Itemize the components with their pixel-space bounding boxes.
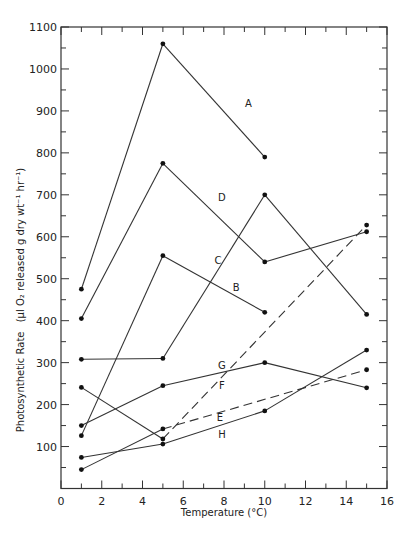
y-axis-label: Photosynthetic Rate (µl O₂ released g dr… — [15, 168, 26, 433]
x-tick-label: 4 — [139, 495, 146, 508]
y-tick-label: 500 — [36, 273, 57, 286]
data-point — [262, 408, 267, 413]
data-point — [79, 467, 84, 472]
series-segment — [163, 363, 265, 386]
y-tick-label: 200 — [36, 399, 57, 412]
series-segment — [81, 44, 163, 289]
data-point — [160, 383, 165, 388]
series-segment — [81, 163, 163, 318]
series-label-b: B — [233, 282, 240, 293]
series-segment — [81, 386, 163, 426]
series-label-h: H — [218, 429, 226, 440]
series-label-f: F — [219, 380, 225, 391]
data-point — [262, 360, 267, 365]
data-point — [160, 41, 165, 46]
line-chart: 0246810121416100200300400500600700800900… — [0, 0, 412, 534]
series-label-c: C — [214, 255, 221, 266]
data-point — [364, 223, 369, 228]
data-point — [364, 229, 369, 234]
data-point — [160, 161, 165, 166]
x-tick-label: 8 — [221, 495, 228, 508]
y-tick-label: 700 — [36, 189, 57, 202]
series-layer — [79, 41, 369, 472]
series-segment — [163, 411, 265, 444]
y-tick-label: 800 — [36, 147, 57, 160]
series-segment — [81, 256, 163, 436]
series-segment — [163, 163, 265, 262]
series-b — [79, 253, 267, 438]
data-point — [364, 385, 369, 390]
series-a — [79, 41, 267, 291]
data-point — [160, 427, 165, 432]
data-point — [160, 437, 165, 442]
y-tick-label: 600 — [36, 231, 57, 244]
series-segment — [163, 225, 367, 439]
series-segment — [265, 195, 367, 315]
x-axis-label: Temperature (°C) — [180, 507, 267, 518]
data-point — [364, 367, 369, 372]
axis-ticks: 0246810121416100200300400500600700800900… — [29, 21, 394, 508]
plot-border — [61, 27, 387, 489]
data-point — [79, 455, 84, 460]
data-point — [364, 312, 369, 317]
series-segment — [81, 429, 163, 470]
series-segment — [81, 444, 163, 457]
y-tick-label: 400 — [36, 315, 57, 328]
data-point — [364, 348, 369, 353]
x-tick-label: 6 — [180, 495, 187, 508]
data-point — [79, 423, 84, 428]
series-label-e: E — [217, 412, 223, 423]
series-segment — [163, 195, 265, 359]
series-c — [79, 192, 369, 361]
series-segment — [81, 387, 163, 439]
data-point — [160, 253, 165, 258]
x-tick-label: 2 — [98, 495, 105, 508]
y-tick-label: 1000 — [29, 63, 57, 76]
plot-frame — [61, 27, 387, 489]
data-point — [79, 433, 84, 438]
y-tick-label: 1100 — [29, 21, 57, 34]
data-point — [262, 155, 267, 160]
data-point — [79, 316, 84, 321]
data-point — [79, 287, 84, 292]
data-point — [262, 310, 267, 315]
data-point — [160, 442, 165, 447]
x-tick-label: 14 — [339, 495, 353, 508]
y-tick-label: 100 — [36, 441, 57, 454]
data-point — [79, 357, 84, 362]
series-segment — [265, 232, 367, 262]
series-g — [79, 223, 369, 442]
x-tick-label: 16 — [380, 495, 394, 508]
y-tick-label: 900 — [36, 105, 57, 118]
series-label-g: G — [218, 360, 226, 371]
data-point — [262, 192, 267, 197]
data-point — [262, 260, 267, 265]
x-tick-label: 12 — [299, 495, 313, 508]
series-segment — [81, 358, 163, 359]
y-axis-label-main: Photosynthetic Rate — [15, 332, 26, 433]
x-tick-label: 0 — [58, 495, 65, 508]
y-axis-label-units: (µl O₂ released g dry wt⁻¹ hr⁻¹) — [15, 168, 26, 323]
y-tick-label: 300 — [36, 357, 57, 370]
series-d — [79, 161, 369, 321]
data-point — [79, 385, 84, 390]
series-label-a: A — [245, 98, 252, 109]
series-label-d: D — [218, 192, 226, 203]
series-segment — [265, 350, 367, 411]
series-labels: ABCDEFGH — [214, 98, 252, 440]
x-tick-label: 10 — [258, 495, 272, 508]
data-point — [160, 356, 165, 361]
